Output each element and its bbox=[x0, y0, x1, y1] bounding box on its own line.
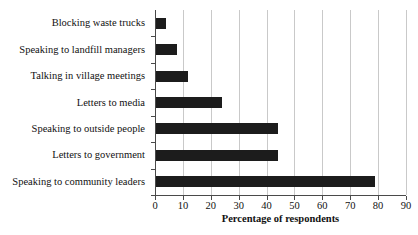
bar bbox=[155, 71, 188, 82]
bar bbox=[155, 18, 166, 29]
x-axis-tick-label-10: 10 bbox=[178, 200, 189, 212]
bar-row bbox=[155, 17, 406, 29]
x-axis-tick-label-50: 50 bbox=[289, 200, 300, 212]
bar-row bbox=[155, 123, 406, 135]
x-axis-tick-label-60: 60 bbox=[317, 200, 328, 212]
category-axis-labels: Blocking waste trucksSpeaking to landfil… bbox=[0, 10, 150, 195]
bar-row bbox=[155, 176, 406, 188]
category-label: Speaking to community leaders bbox=[12, 176, 145, 188]
y-axis-tick bbox=[151, 116, 155, 117]
category-label: Letters to government bbox=[52, 149, 145, 161]
x-axis-tick-label-70: 70 bbox=[345, 200, 356, 212]
category-label: Speaking to landfill managers bbox=[19, 44, 145, 56]
y-axis-line bbox=[155, 10, 156, 195]
bars-layer bbox=[155, 10, 406, 195]
bar bbox=[155, 44, 177, 55]
x-axis-title: Percentage of respondents bbox=[155, 213, 406, 224]
y-axis-tick bbox=[151, 195, 155, 196]
x-axis-tick-label-30: 30 bbox=[233, 200, 244, 212]
category-label: Talking in village meetings bbox=[31, 70, 145, 82]
x-axis-tick-label-20: 20 bbox=[206, 200, 217, 212]
y-axis-tick bbox=[151, 89, 155, 90]
bar-row bbox=[155, 44, 406, 56]
x-axis-line bbox=[155, 195, 406, 196]
category-label: Speaking to outside people bbox=[32, 123, 145, 135]
bar bbox=[155, 123, 278, 134]
plot-area bbox=[155, 10, 406, 195]
x-axis-tick-label-90: 90 bbox=[401, 200, 412, 212]
bar bbox=[155, 176, 375, 187]
category-label: Blocking waste trucks bbox=[52, 17, 145, 29]
x-axis-tick-label-40: 40 bbox=[261, 200, 272, 212]
bar-chart-figure: Blocking waste trucksSpeaking to landfil… bbox=[0, 0, 418, 235]
x-axis-tick-label-0: 0 bbox=[152, 200, 157, 212]
category-label: Letters to media bbox=[77, 97, 145, 109]
y-axis-tick bbox=[151, 142, 155, 143]
y-axis-tick bbox=[151, 169, 155, 170]
bar-row bbox=[155, 97, 406, 109]
bar bbox=[155, 97, 222, 108]
x-axis-tick-label-80: 80 bbox=[373, 200, 384, 212]
bar-row bbox=[155, 149, 406, 161]
gridline-90 bbox=[406, 10, 407, 195]
y-axis-tick bbox=[151, 36, 155, 37]
y-axis-tick bbox=[151, 63, 155, 64]
bar bbox=[155, 150, 278, 161]
bar-row bbox=[155, 70, 406, 82]
